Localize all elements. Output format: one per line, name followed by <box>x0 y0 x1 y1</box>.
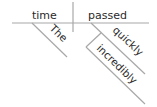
verb-word: passed <box>88 9 127 22</box>
subject-word: time <box>32 9 57 22</box>
sentence-diagram: time passed The quickly incredibly <box>0 0 157 107</box>
verb-modifier-word: quickly <box>111 24 146 58</box>
